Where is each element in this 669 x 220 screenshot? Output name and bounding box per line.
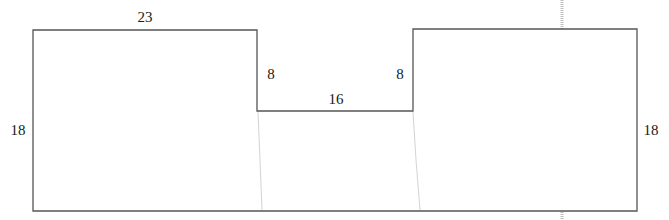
label-notch-left-depth: 8: [267, 66, 275, 82]
label-right-height: 18: [644, 122, 659, 138]
label-top-width: 23: [138, 9, 153, 25]
fold-line-right: [413, 112, 420, 210]
label-notch-right-depth: 8: [396, 66, 404, 82]
fold-line-left: [258, 112, 262, 210]
label-left-height: 18: [11, 122, 26, 138]
shape-outline: [33, 29, 637, 211]
shape-diagram: 23 18 18 8 8 16: [0, 0, 669, 220]
label-notch-width: 16: [329, 91, 345, 107]
